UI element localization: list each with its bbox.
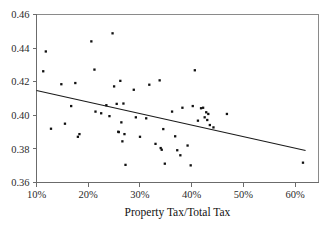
y-tick-label-2: 0.40 [11,110,29,121]
data-point [302,162,304,164]
x-tick-label-4: 50% [234,189,254,200]
y-tick-label-4: 0.44 [11,43,30,54]
data-point [122,102,124,104]
data-point [45,50,47,52]
data-point [164,163,166,165]
data-point [162,128,164,130]
data-point [124,164,126,166]
data-point [116,103,118,105]
data-point [226,113,228,115]
data-point [212,126,214,128]
data-point [113,85,115,87]
y-tick-label-0: 0.36 [11,177,29,188]
data-point [70,105,72,107]
data-point [111,32,113,34]
data-point [42,70,44,72]
y-tick-label-3: 0.42 [11,76,29,87]
x-tick-label-3: 40% [182,189,202,200]
data-point [197,120,199,122]
data-point [204,116,206,118]
data-point [161,149,163,151]
x-tick-label-0: 10% [27,189,47,200]
data-point [50,128,52,130]
data-point [207,113,209,115]
data-point [179,154,181,156]
x-tick-label-5: 60% [286,189,306,200]
data-point [200,107,202,109]
data-point [209,124,211,126]
data-point [202,107,204,109]
data-point [94,110,96,112]
data-point [133,89,135,91]
data-point [148,84,150,86]
plot-canvas: 0.360.380.400.420.440.4610%20%30%40%50%6… [0,0,331,230]
data-point [118,131,120,133]
regression-line [37,90,306,150]
data-point [171,110,173,112]
data-point [176,149,178,151]
data-point [206,119,208,121]
scatter-chart: 0.360.380.400.420.440.4610%20%30%40%50%6… [0,0,331,230]
data-point [159,79,161,81]
plot-frame [37,15,319,183]
data-point [119,80,121,82]
x-axis-title: Property Tax/Total Tax [125,206,231,219]
data-point [74,82,76,84]
data-point [64,123,66,125]
data-point [145,117,147,119]
data-point [190,164,192,166]
data-point [181,107,183,109]
data-point [77,136,79,138]
y-tick-label-5: 0.46 [11,9,29,20]
data-point [120,121,122,123]
data-point [174,135,176,137]
data-point [205,111,207,113]
data-point [108,115,110,117]
data-point [105,104,107,106]
data-point [93,68,95,70]
data-point [139,136,141,138]
data-point [154,143,156,145]
data-point [60,83,62,85]
data-point [100,112,102,114]
data-point [192,105,194,107]
data-point [194,69,196,71]
data-point [123,133,125,135]
x-tick-label-1: 20% [79,189,99,200]
y-tick-label-1: 0.38 [11,144,29,155]
data-point [121,140,123,142]
data-point [186,144,188,146]
data-point [135,116,137,118]
data-point [78,133,80,135]
data-point [90,40,92,42]
x-tick-label-2: 30% [130,189,150,200]
